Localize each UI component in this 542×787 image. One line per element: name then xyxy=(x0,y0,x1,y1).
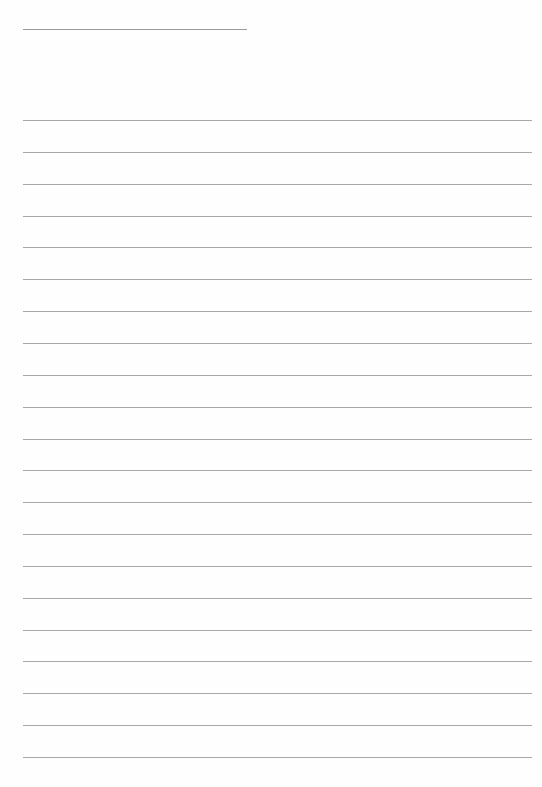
lined-paper-page xyxy=(0,0,542,787)
ruled-line xyxy=(23,598,532,599)
ruled-line xyxy=(23,439,532,440)
ruled-line xyxy=(23,343,532,344)
ruled-line xyxy=(23,184,532,185)
ruled-line xyxy=(23,216,532,217)
ruled-line xyxy=(23,407,532,408)
ruled-line xyxy=(23,693,532,694)
ruled-line xyxy=(23,725,532,726)
ruled-line xyxy=(23,247,532,248)
ruled-line xyxy=(23,502,532,503)
ruled-line xyxy=(23,757,532,758)
header-name-line xyxy=(23,29,247,30)
ruled-line xyxy=(23,630,532,631)
ruled-line xyxy=(23,661,532,662)
ruled-line xyxy=(23,470,532,471)
ruled-line xyxy=(23,279,532,280)
ruled-line xyxy=(23,566,532,567)
ruled-line xyxy=(23,311,532,312)
ruled-line xyxy=(23,375,532,376)
ruled-line xyxy=(23,152,532,153)
ruled-line xyxy=(23,120,532,121)
ruled-line xyxy=(23,534,532,535)
